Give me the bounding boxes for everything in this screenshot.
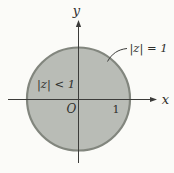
- origin-label: O: [67, 102, 77, 116]
- y-axis-arrowhead-icon: [76, 20, 81, 27]
- boundary-label: |z| = 1: [130, 41, 168, 56]
- x-axis-label: x: [162, 92, 170, 107]
- x-axis-arrowhead-icon: [150, 97, 157, 102]
- unit-tick-label: 1: [113, 103, 120, 116]
- complex-plane-diagram: y x O 1 |z| < 1 |z| = 1: [0, 0, 174, 173]
- unit-disk-figure: y x O 1 |z| < 1 |z| = 1: [0, 0, 174, 173]
- y-axis-label: y: [72, 3, 81, 18]
- interior-region-label: |z| < 1: [37, 77, 75, 92]
